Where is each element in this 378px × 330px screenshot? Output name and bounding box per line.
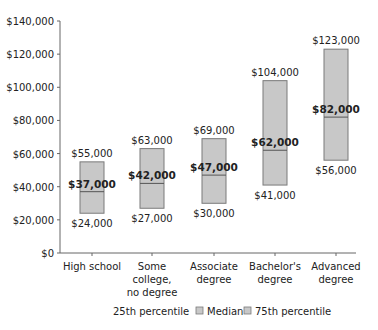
y-tick-label: $20,000 xyxy=(13,215,54,226)
x-tick-label: Associatedegree xyxy=(190,261,238,285)
legend-swatch-median xyxy=(196,307,203,314)
x-tick-label: High school xyxy=(63,261,121,272)
median-label: $42,000 xyxy=(128,169,176,181)
box-group: $123,000$82,000$56,000 xyxy=(312,35,360,176)
p25-label: $56,000 xyxy=(315,165,356,176)
box-group: $104,000$62,000$41,000 xyxy=(251,67,299,201)
y-tick-label: $40,000 xyxy=(13,182,54,193)
box-group: $55,000$37,000$24,000 xyxy=(68,148,116,229)
y-tick-label: $60,000 xyxy=(13,149,54,160)
y-tick-label: $80,000 xyxy=(13,115,54,126)
median-label: $47,000 xyxy=(190,161,238,173)
legend-label-median: Median xyxy=(207,306,243,317)
box-group: $63,000$42,000$27,000 xyxy=(128,135,176,225)
box-group: $69,000$47,000$30,000 xyxy=(190,125,238,220)
legend: 25th percentileMedian75th percentile xyxy=(113,306,331,317)
legend-label-25th: 25th percentile xyxy=(113,306,189,317)
x-tick-label: Advanceddegree xyxy=(311,261,360,285)
p25-label: $30,000 xyxy=(193,208,234,219)
p25-label: $27,000 xyxy=(131,213,172,224)
legend-swatch-75th xyxy=(244,307,251,314)
p75-label: $123,000 xyxy=(312,35,360,46)
y-tick-label: $140,000 xyxy=(6,16,54,27)
y-tick-label: $120,000 xyxy=(6,49,54,60)
p25-label: $24,000 xyxy=(71,218,112,229)
p75-label: $104,000 xyxy=(251,67,299,78)
x-tick-label: Somecollege,no degree xyxy=(127,261,178,298)
legend-label-75th: 75th percentile xyxy=(255,306,331,317)
p75-label: $55,000 xyxy=(71,148,112,159)
box xyxy=(263,81,287,185)
boxes: $55,000$37,000$24,000$63,000$42,000$27,0… xyxy=(68,35,360,229)
y-tick-label: $100,000 xyxy=(6,82,54,93)
y-axis: $0$20,000$40,000$60,000$80,000$100,000$1… xyxy=(6,16,60,259)
x-axis: High schoolSomecollege,no degreeAssociat… xyxy=(60,253,361,298)
p75-label: $63,000 xyxy=(131,135,172,146)
x-tick-label: Bachelor'sdegree xyxy=(249,261,301,285)
box-chart: $0$20,000$40,000$60,000$80,000$100,000$1… xyxy=(0,0,378,330)
median-label: $37,000 xyxy=(68,178,116,190)
median-label: $62,000 xyxy=(251,136,299,148)
p25-label: $41,000 xyxy=(254,190,295,201)
median-label: $82,000 xyxy=(312,103,360,115)
p75-label: $69,000 xyxy=(193,125,234,136)
y-tick-label: $0 xyxy=(41,248,54,259)
